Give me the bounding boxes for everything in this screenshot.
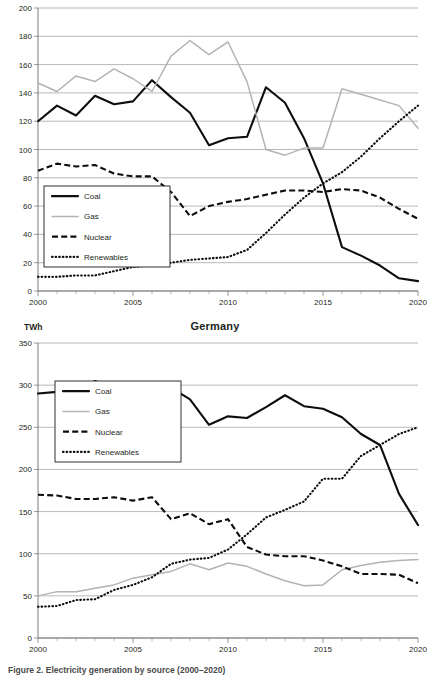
y-tick-label: 350: [19, 339, 33, 348]
y-tick-label: 200: [19, 4, 33, 13]
x-tick-label: 2000: [29, 298, 47, 307]
legend-label-gas: Gas: [84, 212, 99, 221]
chart-bottom-title: Germany: [0, 320, 430, 332]
y-tick-label: 0: [28, 287, 33, 296]
y-tick-label: 0: [28, 634, 33, 643]
x-tick-label: 2005: [124, 645, 142, 654]
chart-bottom: Germany TWh 0501001502002503003502000200…: [0, 318, 430, 660]
y-tick-label: 50: [23, 592, 32, 601]
legend-label-nuclear: Nuclear: [95, 428, 123, 437]
y-tick-label: 140: [19, 89, 33, 98]
x-tick-label: 2015: [314, 645, 332, 654]
x-tick-label: 2020: [409, 298, 427, 307]
legend-label-renewables: Renewables: [84, 253, 128, 262]
y-tick-label: 150: [19, 508, 33, 517]
legend-label-coal: Coal: [84, 192, 101, 201]
x-tick-label: 2010: [219, 298, 237, 307]
y-tick-label: 160: [19, 61, 33, 70]
series-line-gas: [38, 560, 418, 596]
x-tick-label: 2000: [29, 645, 47, 654]
legend-label-nuclear: Nuclear: [84, 233, 112, 242]
figure-caption: Figure 2. Electricity generation by sour…: [8, 665, 428, 675]
series-line-nuclear: [38, 495, 418, 583]
y-tick-label: 100: [19, 550, 33, 559]
y-tick-label: 120: [19, 117, 33, 126]
y-tick-label: 300: [19, 381, 33, 390]
y-tick-label: 20: [23, 259, 32, 268]
legend-label-coal: Coal: [95, 387, 112, 396]
chart-top: 0204060801001201401601802002000200520102…: [0, 0, 430, 312]
y-tick-label: 180: [19, 32, 33, 41]
y-tick-label: 40: [23, 230, 32, 239]
y-tick-label: 60: [23, 202, 32, 211]
y-tick-label: 80: [23, 174, 32, 183]
y-tick-label: 100: [19, 146, 33, 155]
y-tick-label: 200: [19, 465, 33, 474]
legend-label-gas: Gas: [95, 407, 110, 416]
y-tick-label: 250: [19, 423, 33, 432]
x-tick-label: 2005: [124, 298, 142, 307]
chart-bottom-svg: 0501001502002503003502000200520102015202…: [0, 318, 430, 660]
legend-label-renewables: Renewables: [95, 448, 139, 457]
chart-bottom-unit-label: TWh: [24, 322, 42, 332]
chart-top-svg: 0204060801001201401601802002000200520102…: [0, 0, 430, 312]
x-tick-label: 2015: [314, 298, 332, 307]
x-tick-label: 2010: [219, 645, 237, 654]
x-tick-label: 2020: [409, 645, 427, 654]
